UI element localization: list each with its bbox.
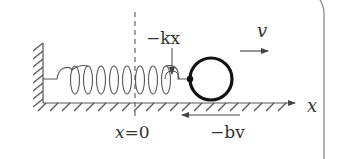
velocity-label: v xyxy=(257,20,267,41)
spring xyxy=(43,66,190,95)
ball xyxy=(190,58,232,100)
spring-force-label: −kx xyxy=(146,28,181,48)
origin-eq: = xyxy=(125,122,139,142)
wall xyxy=(33,43,43,107)
spring-mass-diagram: −kx v x x=0 −bv xyxy=(0,0,343,159)
attachment-dot xyxy=(187,76,193,82)
origin-label: x=0 xyxy=(115,122,150,142)
floor xyxy=(38,103,295,111)
panel-border xyxy=(320,0,324,159)
damping-force-label: −bv xyxy=(210,122,245,142)
origin-value: 0 xyxy=(139,122,150,142)
spring-force-arrow xyxy=(165,48,179,79)
origin-var: x xyxy=(115,122,125,142)
axis-label: x xyxy=(307,95,317,116)
